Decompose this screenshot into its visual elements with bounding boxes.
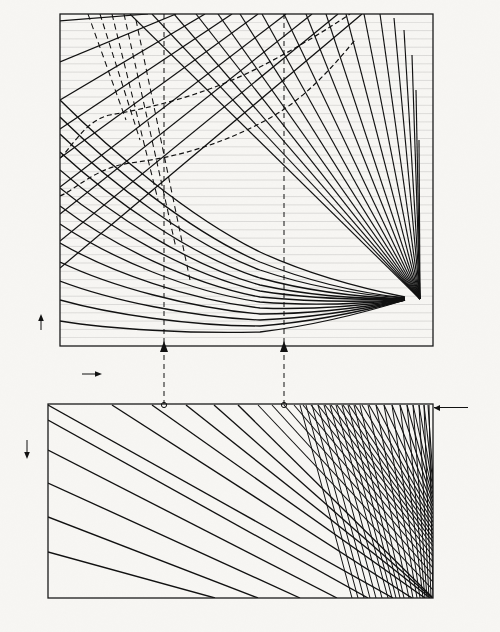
arrow-left-icon	[434, 404, 468, 410]
beispiel-callout	[432, 404, 468, 410]
figure-page	[0, 0, 500, 632]
nomogram-svg	[0, 0, 500, 632]
nomogram-figure	[0, 0, 500, 632]
